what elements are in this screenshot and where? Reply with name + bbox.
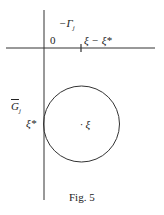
diagram-canvas (0, 0, 164, 215)
gamma-subscript: j (73, 24, 75, 32)
g-subscript: j (19, 107, 21, 115)
gamma-label: −Γj (59, 18, 75, 32)
origin-label: 0 (50, 35, 56, 46)
xi-center-label: · ξ (80, 119, 90, 130)
shift-label: ξ − ξ* (84, 35, 112, 46)
figure-caption: Fig. 5 (69, 192, 95, 203)
gamma-symbol: −Γ (59, 17, 73, 29)
xi-star-label: ξ* (26, 118, 36, 129)
g-bar-label: Gj (11, 101, 21, 115)
g-bar-symbol: G (11, 100, 19, 112)
figure-5: 0 −Γj ξ − ξ* Gj ξ* · ξ Fig. 5 (0, 0, 164, 215)
